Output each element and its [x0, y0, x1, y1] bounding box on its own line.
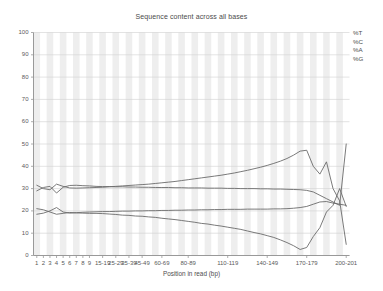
x-tick-label: 60-69	[154, 260, 169, 266]
y-tick-label: 10	[13, 230, 29, 236]
x-tick-label: 7	[75, 260, 78, 266]
x-tick-label: 3	[48, 260, 51, 266]
legend-item-g: %G	[353, 55, 363, 64]
x-tick-label: 170-179	[296, 260, 318, 266]
x-tick-label: 200-201	[335, 260, 357, 266]
legend-item-a: %A	[353, 46, 363, 55]
x-tick-label: 45-49	[134, 260, 149, 266]
x-axis-title: Position in read (bp)	[0, 270, 383, 277]
sequence-content-chart: Sequence content across all bases 010203…	[0, 0, 383, 291]
y-tick-label: 80	[13, 74, 29, 80]
x-tick-label: 110-119	[217, 260, 238, 266]
legend-item-t: %T	[353, 29, 362, 38]
x-tick-label: 1	[35, 260, 38, 266]
x-tick-label: 5	[61, 260, 64, 266]
x-tick-label: 8	[81, 260, 84, 266]
y-tick-label: 70	[13, 96, 29, 102]
y-tick-label: 40	[13, 163, 29, 169]
x-tick-label: 80-89	[181, 260, 196, 266]
x-tick-label: 6	[68, 260, 71, 266]
y-tick-label: 30	[13, 185, 29, 191]
y-tick-label: 90	[13, 51, 29, 57]
plot-area	[0, 0, 383, 291]
y-tick-label: 60	[13, 118, 29, 124]
y-tick-label: 0	[13, 252, 29, 258]
x-tick-label: 4	[55, 260, 58, 266]
y-tick-label: 20	[13, 207, 29, 213]
y-tick-label: 50	[13, 141, 29, 147]
chart-legend: %T %C %A %G	[352, 28, 381, 64]
x-tick-label: 140-149	[256, 260, 278, 266]
legend-item-c: %C	[353, 38, 363, 47]
y-tick-label: 100	[13, 29, 29, 35]
x-tick-label: 9	[88, 260, 91, 266]
x-tick-label: 2	[42, 260, 45, 266]
